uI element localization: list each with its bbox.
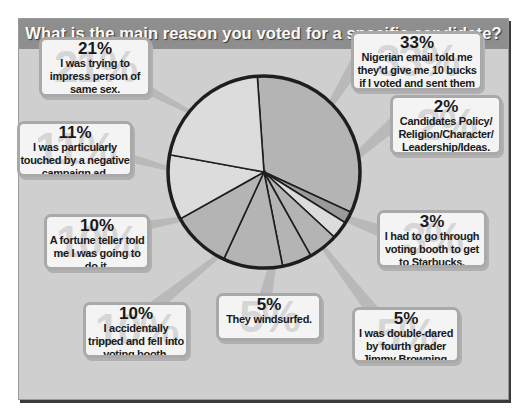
callout-percent: 21% bbox=[42, 40, 148, 57]
callout-3-starbucks: 3% 3% I had to go through voting booth t… bbox=[377, 210, 487, 268]
pie-slice bbox=[170, 76, 264, 172]
callout-text: Candidates Policy/ Religion/Character/ L… bbox=[393, 115, 499, 154]
callout-text: A fortune teller told me I was going to … bbox=[47, 234, 147, 270]
callout-percent: 5% bbox=[219, 296, 319, 313]
callout-percent: 10% bbox=[86, 305, 186, 322]
chart-board: What is the main reason you voted for a … bbox=[18, 18, 509, 400]
callout-text: They windsurfed. bbox=[219, 313, 319, 326]
callout-text: I was particularly touched by a negative… bbox=[20, 141, 130, 177]
callout-5-windsurfed: 5% 5% They windsurfed. bbox=[216, 293, 322, 341]
callout-percent: 10% bbox=[47, 217, 147, 234]
callout-text: I was double-dared by fourth grader Jimm… bbox=[355, 327, 457, 363]
callout-5-double-dared: 5% 5% I was double-dared by fourth grade… bbox=[352, 307, 460, 363]
callout-2-candidates-policy: 2% 2% Candidates Policy/ Religion/Charac… bbox=[390, 95, 502, 155]
callout-text: I had to go through voting booth to get … bbox=[380, 230, 484, 268]
callout-text: I accidentally tripped and fell into vot… bbox=[86, 322, 186, 358]
callout-10-fortune-teller: 10% 10% A fortune teller told me I was g… bbox=[44, 214, 150, 270]
callout-text: Nigerian email told me they'd give me 10… bbox=[354, 51, 480, 91]
callout-percent: 11% bbox=[20, 124, 130, 141]
callout-percent: 2% bbox=[393, 98, 499, 115]
callout-percent: 33% bbox=[354, 34, 480, 51]
callout-percent: 3% bbox=[380, 213, 484, 230]
callout-10-tripped: 10% 10% I accidentally tripped and fell … bbox=[83, 302, 189, 358]
callout-21-impress: 21% 21% I was trying to impress person o… bbox=[39, 37, 151, 97]
callout-11-negative-ad: 11% 11% I was particularly touched by a … bbox=[17, 121, 133, 177]
callout-33-nigerian-email: 33% 33% Nigerian email told me they'd gi… bbox=[351, 31, 483, 91]
callout-percent: 5% bbox=[355, 310, 457, 327]
callout-text: I was trying to impress person of same s… bbox=[42, 57, 148, 96]
